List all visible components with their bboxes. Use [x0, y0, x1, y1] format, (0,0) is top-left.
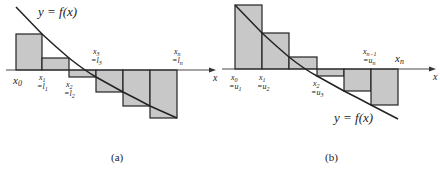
caption-b: (b) [325, 151, 338, 164]
rect-a-1 [16, 34, 42, 70]
tick-label-xn-b: xn [394, 52, 404, 66]
axis-label-a: x [212, 72, 218, 83]
tick-label-ln-a: =ln [172, 56, 183, 66]
tick-label-l2-a: =l2 [64, 89, 75, 99]
riemann-sum-figure: y = f(x) x x0 x1 =l1 x2 =l2 x3 =l3 xn =l… [0, 0, 440, 171]
rect-a-4 [96, 70, 123, 92]
panel-a: y = f(x) x x0 x1 =l1 x2 =l2 x3 =l3 xn =l… [6, 4, 218, 164]
rect-a-6 [150, 70, 177, 118]
caption-a: (a) [111, 151, 124, 164]
rect-b-6 [371, 69, 398, 105]
rect-b-1 [235, 5, 262, 69]
tick-label-l3-a: =l3 [91, 56, 102, 66]
rect-b-4 [317, 69, 344, 76]
tick-label-l1-a: =l1 [37, 82, 48, 92]
rect-b-5 [344, 69, 371, 91]
rect-a-2 [42, 58, 69, 70]
axis-label-b: x [432, 71, 438, 82]
tick-label-x0-a: x0 [12, 74, 22, 88]
rect-a-3 [69, 70, 96, 77]
tick-label-un-b: =un [363, 56, 375, 66]
tick-label-u1-b: =u1 [229, 82, 241, 92]
rect-b-2 [262, 33, 289, 69]
panel-b: y = f(x) x x0 =u1 x1 =u2 x2 =u3 xn−1 =un… [222, 5, 438, 164]
curve-label-b: y = f(x) [332, 110, 373, 125]
rect-a-5 [123, 70, 150, 106]
tick-label-u3-b: =u3 [311, 88, 323, 98]
tick-label-u2-b: =u2 [257, 82, 269, 92]
curve-label-a: y = f(x) [36, 4, 77, 19]
